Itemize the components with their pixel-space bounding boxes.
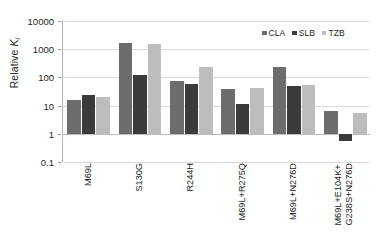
y-tick-mark bbox=[58, 77, 61, 78]
x-tick-label: M69L+E104K+G238S+N276D bbox=[333, 163, 354, 226]
legend-item: CLA bbox=[262, 28, 285, 38]
chart-legend: CLASLBTZB bbox=[262, 28, 345, 38]
legend-label: SLB bbox=[299, 28, 315, 38]
x-tick-label: M69L+N276D bbox=[288, 163, 298, 220]
x-tick-label: R244H bbox=[185, 163, 195, 192]
bar-cla bbox=[324, 111, 338, 134]
bar-cla bbox=[67, 100, 81, 134]
y-tick-label: 10000 bbox=[28, 16, 54, 27]
bar-tzb bbox=[250, 88, 264, 134]
x-tick-label: M69L+R275Q bbox=[237, 163, 247, 220]
x-tick-label-line: M69L bbox=[83, 163, 93, 186]
legend-label: TZB bbox=[328, 28, 344, 38]
bar-tzb bbox=[148, 44, 162, 134]
x-tick-label-line: G238S+N276D bbox=[344, 163, 355, 226]
legend-swatch-icon bbox=[262, 31, 267, 36]
legend-label: CLA bbox=[269, 28, 286, 38]
legend-item: TZB bbox=[322, 28, 345, 38]
y-tick-mark bbox=[58, 162, 61, 163]
bar-slb bbox=[185, 84, 199, 134]
bar-group bbox=[324, 21, 367, 162]
bar-tzb bbox=[96, 97, 110, 134]
bar-group bbox=[119, 21, 162, 162]
x-tick-label: S130G bbox=[134, 163, 144, 192]
y-tick-label: 10 bbox=[43, 100, 54, 111]
bar-group bbox=[170, 21, 213, 162]
y-tick-mark bbox=[58, 134, 61, 135]
y-tick-mark bbox=[58, 21, 61, 22]
bar-cla bbox=[221, 89, 235, 134]
bar-slb bbox=[287, 86, 301, 134]
y-axis-ticks: 1000010001001010.1 bbox=[0, 21, 58, 162]
y-tick-label: 0.1 bbox=[41, 157, 54, 168]
x-axis-labels: M69LS130GR244HM69L+R275QM69L+N276DM69L+E… bbox=[62, 163, 370, 248]
y-tick-mark bbox=[58, 49, 61, 50]
bar-slb bbox=[236, 104, 250, 133]
bar-tzb bbox=[199, 67, 213, 133]
x-tick-label-line: M69L+R275Q bbox=[237, 163, 247, 220]
y-tick-mark bbox=[58, 106, 61, 107]
legend-swatch-icon bbox=[322, 31, 327, 36]
bar-slb bbox=[339, 134, 353, 141]
legend-swatch-icon bbox=[292, 31, 297, 36]
legend-item: SLB bbox=[292, 28, 315, 38]
y-tick-label: 1 bbox=[49, 128, 54, 139]
bar-tzb bbox=[302, 85, 316, 134]
y-tick-label: 1000 bbox=[33, 44, 54, 55]
bar-slb bbox=[133, 75, 147, 134]
bar-cla bbox=[119, 43, 133, 134]
bar-cla bbox=[170, 81, 184, 134]
bar-group bbox=[67, 21, 110, 162]
bar-group bbox=[221, 21, 264, 162]
x-tick-label-line: R244H bbox=[185, 163, 195, 192]
bar-group bbox=[273, 21, 316, 162]
x-tick-label-line: M69L+E104K+ bbox=[333, 163, 344, 226]
bar-slb bbox=[82, 95, 96, 134]
bar-chart: Relative Ki 1000010001001010.1 M69LS130G… bbox=[0, 0, 376, 248]
x-tick-label-line: M69L+N276D bbox=[288, 163, 298, 220]
x-tick-label-line: S130G bbox=[134, 163, 144, 192]
x-tick-label: M69L bbox=[83, 163, 93, 186]
bar-cla bbox=[273, 67, 287, 134]
plot-area bbox=[62, 21, 370, 162]
y-tick-label: 100 bbox=[38, 72, 54, 83]
bar-tzb bbox=[353, 113, 367, 134]
